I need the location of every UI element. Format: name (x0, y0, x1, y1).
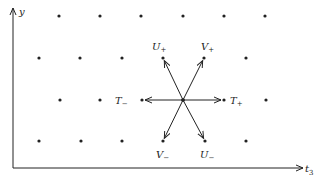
vector-label: T− (115, 95, 128, 108)
weight-diagram: y t3 U+V+T+T−V−U− (0, 0, 320, 180)
lattice-point (140, 98, 143, 101)
lattice-point (139, 14, 142, 17)
x-axis-label: t3 (305, 163, 314, 177)
lattice-point (161, 56, 164, 59)
vector-U+ (164, 61, 183, 100)
lattice-point (120, 139, 123, 142)
lattice-point (79, 139, 82, 142)
lattice-point (37, 139, 40, 142)
vector-label: U+ (152, 41, 166, 54)
lattice-point (98, 14, 101, 17)
y-axis-label: y (18, 6, 25, 17)
lattice-point (244, 139, 247, 142)
origin-point (181, 98, 185, 102)
lattice-point (37, 56, 40, 59)
lattice-point (244, 56, 247, 59)
lattice-point (263, 14, 266, 17)
vector-label: T+ (230, 95, 243, 108)
lattice-point (98, 98, 101, 101)
vector-label: V+ (201, 41, 214, 54)
lattice-point (120, 56, 123, 59)
lattice-point (222, 98, 225, 101)
vector-U- (183, 100, 204, 138)
vector-V+ (183, 61, 203, 100)
lattice-point (78, 56, 81, 59)
lattice-points (37, 14, 267, 142)
lattice-point (181, 14, 184, 17)
lattice-point (57, 14, 60, 17)
lattice-point (203, 139, 206, 142)
lattice-point (264, 98, 267, 101)
lattice-point (222, 14, 225, 17)
lattice-point (58, 98, 61, 101)
vector-label: V− (156, 149, 169, 162)
vector-V- (164, 100, 183, 138)
lattice-point (161, 139, 164, 142)
lattice-point (202, 56, 205, 59)
vector-label: U− (200, 149, 214, 162)
axes: y t3 (13, 6, 314, 177)
